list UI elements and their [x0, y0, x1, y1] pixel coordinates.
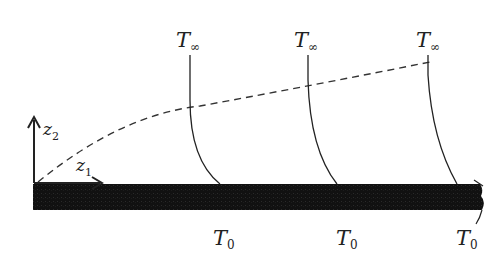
wall-temp-label-3: T0 [456, 226, 478, 252]
temperature-profiles [190, 55, 457, 184]
wall-temp-label-2: T0 [336, 226, 358, 252]
free-stream-temp-label-1: T∞ [176, 28, 200, 54]
z2-label: z2 [42, 119, 59, 143]
thermal-boundary-layer-diagram: z2 z1 T∞ T∞ T∞ T0 T0 T0 [0, 0, 503, 258]
plate [33, 180, 484, 224]
wall-temp-label-1: T0 [213, 226, 235, 252]
z1-label: z1 [75, 155, 92, 179]
free-stream-temp-label-2: T∞ [294, 28, 318, 54]
free-stream-temp-label-3: T∞ [416, 28, 440, 54]
boundary-layer-edge [38, 62, 430, 182]
